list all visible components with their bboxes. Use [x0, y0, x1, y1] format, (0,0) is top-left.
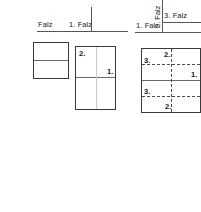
group-3-marker-top-2: 2. — [164, 51, 170, 59]
group-2-marker-1: 1. — [107, 68, 113, 76]
group-3-marker-upper-3: 3. — [144, 57, 150, 65]
group-1-sheet — [33, 42, 69, 79]
group-3-header-label-vertical: 2. Falz — [153, 5, 162, 28]
group-3-leader-rule-lower — [135, 32, 201, 33]
group-1-leader-rule — [37, 31, 68, 32]
group-1-fold-horizontal — [34, 60, 68, 61]
group-2-fold-vertical — [96, 47, 97, 109]
group-3-marker-bottom-2: 2. — [165, 103, 171, 111]
group-3-leader-rule-upper — [163, 22, 201, 23]
fold-diagram-page: Falz 1. Falz 2. 1. 1. Falz — [0, 0, 201, 212]
fold-group-3: 1. Falz 2. Falz 3. Falz 2. 3. 1. 3. 2. — [132, 0, 201, 140]
group-2-header-label: 1. Falz — [69, 20, 92, 29]
fold-group-1: Falz — [0, 0, 66, 140]
group-2-marker-2: 2. — [79, 50, 85, 58]
group-3-marker-lower-3: 3. — [144, 88, 150, 96]
group-2-leader-rule-vertical — [91, 7, 92, 32]
fold-group-2: 1. Falz 2. 1. — [66, 0, 132, 140]
group-3-marker-middle-1: 1. — [191, 71, 197, 79]
group-2-leader-rule-horizontal — [68, 31, 128, 32]
group-2-sheet: 2. 1. — [75, 46, 116, 110]
group-3-header-label-right: 3. Falz — [164, 11, 187, 20]
group-3-leader-rule-vertical — [162, 0, 163, 33]
group-3-sheet: 2. 3. 1. 3. 2. — [141, 48, 201, 113]
group-1-header-label: Falz — [38, 20, 53, 29]
